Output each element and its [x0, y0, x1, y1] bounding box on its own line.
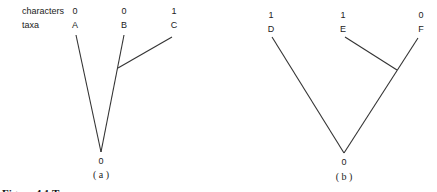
taxon-label-B: B: [121, 20, 127, 30]
root-state-a: 0: [98, 156, 103, 166]
taxon-label-D: D: [268, 24, 275, 34]
tree-panel-a: 0 0 1 A B C 0 ( a ): [72, 6, 178, 181]
character-state-A: 0: [72, 6, 77, 16]
phylogeny-figure: characters taxa 0 0 1 A B C 0 ( a ) 1 1 …: [0, 0, 437, 192]
character-state-B: 0: [121, 6, 126, 16]
panel-caption-b: ( b ): [336, 171, 353, 183]
figure-caption: Figure 4.1 Two ...: [2, 187, 83, 192]
root-state-b: 0: [341, 157, 346, 167]
panel-caption-a: ( a ): [93, 169, 109, 181]
branch-C: [118, 37, 172, 68]
taxon-label-E: E: [340, 24, 346, 34]
taxon-label-C: C: [171, 20, 178, 30]
taxon-label-F: F: [418, 24, 424, 34]
character-state-D: 1: [268, 10, 273, 20]
taxa-row-label: taxa: [22, 20, 39, 30]
branch-B: [101, 35, 124, 152]
tree-panel-b: 1 1 0 D E F 0 ( b ): [268, 10, 425, 183]
branch-A: [76, 35, 101, 152]
character-state-C: 1: [171, 6, 176, 16]
branch-D: [272, 37, 344, 153]
character-state-F: 0: [418, 10, 423, 20]
branch-E: [345, 37, 397, 70]
character-state-E: 1: [340, 10, 345, 20]
branch-F: [344, 38, 418, 153]
taxon-label-A: A: [72, 20, 78, 30]
characters-row-label: characters: [22, 6, 65, 16]
